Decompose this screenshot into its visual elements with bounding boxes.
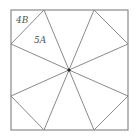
corner-chord-line bbox=[94, 96, 128, 130]
corner-chord-line bbox=[94, 10, 128, 44]
corner-chord-line bbox=[11, 96, 44, 130]
geometric-diagram: 4B 5A bbox=[0, 0, 138, 136]
center-point bbox=[67, 68, 70, 71]
label-4b: 4B bbox=[15, 15, 29, 25]
label-5a: 5A bbox=[34, 35, 47, 45]
